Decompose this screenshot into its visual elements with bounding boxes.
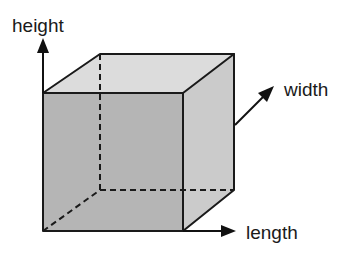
- width-arrow: [235, 86, 274, 125]
- front-face: [43, 93, 183, 231]
- cube-diagram: height width length: [0, 0, 352, 253]
- height-arrow: [37, 38, 49, 93]
- cube: [43, 54, 234, 231]
- arrow-up-icon: [37, 38, 49, 53]
- arrow-right-icon: [221, 225, 236, 237]
- length-label: length: [246, 222, 298, 243]
- height-label: height: [12, 15, 64, 36]
- length-arrow: [183, 225, 236, 237]
- width-label: width: [283, 79, 328, 100]
